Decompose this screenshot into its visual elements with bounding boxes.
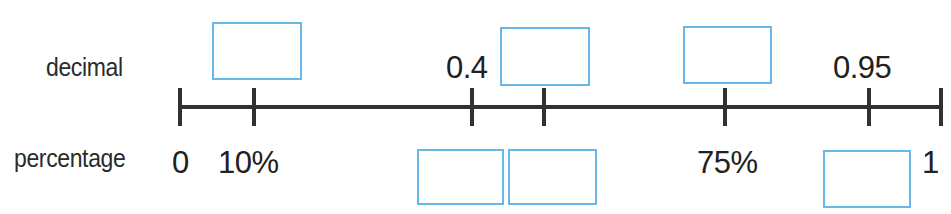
axis-tick bbox=[252, 88, 256, 126]
axis-tick bbox=[542, 88, 546, 126]
decimal-answer-box[interactable] bbox=[212, 22, 302, 80]
percentage-answer-box[interactable] bbox=[417, 149, 504, 205]
decimal-answer-box[interactable] bbox=[500, 27, 590, 86]
decimal-value-label: 0.4 bbox=[446, 50, 488, 86]
percentage-value-label: 0 bbox=[172, 145, 189, 181]
axis-tick bbox=[723, 88, 727, 126]
axis-tick bbox=[470, 88, 474, 126]
percentage-value-label: 75% bbox=[697, 145, 758, 181]
percentage-value-label: 1 bbox=[922, 145, 939, 181]
row-label-percentage: percentage bbox=[14, 144, 125, 173]
decimal-answer-box[interactable] bbox=[683, 26, 772, 84]
axis-tick bbox=[939, 88, 943, 126]
percentage-answer-box[interactable] bbox=[823, 150, 911, 208]
axis-tick bbox=[867, 88, 871, 126]
number-line-axis bbox=[180, 105, 941, 109]
percentage-value-label: 10% bbox=[218, 145, 279, 181]
row-label-decimal: decimal bbox=[46, 53, 123, 82]
number-line-worksheet: decimal percentage 0.40.95 010%75%1 bbox=[0, 0, 951, 214]
decimal-value-label: 0.95 bbox=[833, 50, 891, 86]
axis-tick bbox=[178, 88, 182, 126]
percentage-answer-box[interactable] bbox=[508, 149, 597, 205]
